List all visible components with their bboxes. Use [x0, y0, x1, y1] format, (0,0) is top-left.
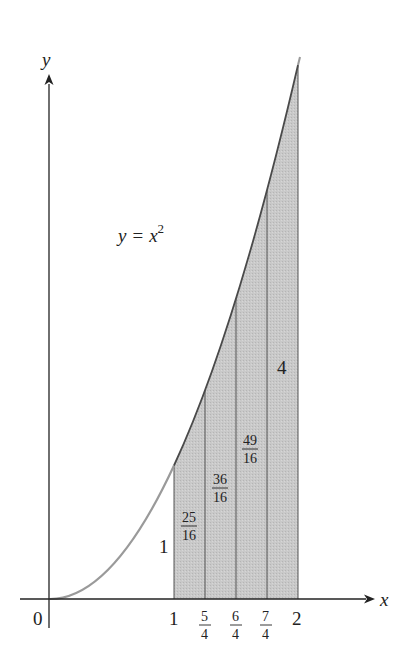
x-tick-2: 2 — [292, 608, 302, 629]
svg-text:4: 4 — [232, 627, 239, 642]
x-tick-7-4: 7 4 — [260, 609, 272, 642]
svg-text:16: 16 — [182, 528, 196, 543]
svg-text:16: 16 — [243, 451, 257, 466]
y-axis-label: y — [40, 49, 51, 70]
svg-text:4: 4 — [201, 627, 208, 642]
height-label-4: 4 — [277, 357, 287, 378]
svg-text:16: 16 — [213, 490, 227, 505]
svg-text:6: 6 — [232, 609, 239, 624]
height-label-1: 1 — [159, 536, 169, 557]
parabola-curve-tip — [298, 57, 300, 65]
svg-text:25: 25 — [182, 510, 196, 525]
svg-text:36: 36 — [213, 472, 227, 487]
svg-text:4: 4 — [262, 627, 269, 642]
x-tick-1: 1 — [169, 608, 179, 629]
svg-text:7: 7 — [262, 609, 269, 624]
svg-text:49: 49 — [243, 433, 257, 448]
y-axis-arrow-icon — [45, 74, 54, 85]
origin-label: 0 — [33, 608, 43, 629]
x-axis-label: x — [379, 589, 389, 610]
parabola-curve-lower — [50, 466, 174, 600]
x-tick-6-4: 6 4 — [230, 609, 242, 642]
x-tick-5-4: 5 4 — [199, 609, 211, 642]
curve-equation-label: y=x2 — [116, 221, 164, 246]
parabola-area-diagram: y x 0 y=x2 1 5 4 6 4 7 4 2 1 25 16 36 16… — [0, 0, 414, 670]
svg-text:5: 5 — [201, 609, 208, 624]
